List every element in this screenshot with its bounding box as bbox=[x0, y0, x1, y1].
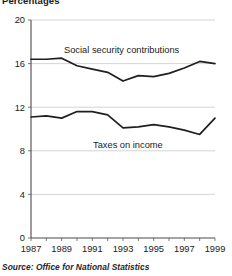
series-label-taxes-on-income: Taxes on income bbox=[93, 140, 163, 150]
x-tick-label: 1991 bbox=[82, 244, 103, 254]
x-tick-label: 1997 bbox=[174, 244, 195, 254]
source-label: Source: Office for National Statistics bbox=[2, 262, 149, 272]
x-tick-label: 1989 bbox=[51, 244, 72, 254]
x-tick-label: 1999 bbox=[205, 244, 226, 254]
y-tick-label: 16 bbox=[15, 59, 25, 69]
y-tick-label: 4 bbox=[20, 190, 25, 200]
y-tick-label: 12 bbox=[15, 103, 25, 113]
y-tick-label: 8 bbox=[20, 146, 25, 156]
x-tick-label: 1993 bbox=[113, 244, 134, 254]
y-tick-label: 20 bbox=[15, 15, 25, 25]
y-axis-ticks: 048121620 bbox=[15, 15, 31, 243]
series-label-social-security: Social security contributions bbox=[64, 45, 180, 55]
series-lines bbox=[31, 58, 215, 134]
line-chart-plot: 048121620 1987198919911993199519971999 S… bbox=[0, 0, 232, 276]
chart-figure: Percentages 048121620 198719891991199319… bbox=[0, 0, 232, 276]
series-path-taxes-on-income bbox=[31, 112, 215, 135]
series-path-social-security-contributions bbox=[31, 58, 215, 81]
x-tick-label: 1987 bbox=[21, 244, 42, 254]
y-tick-label: 0 bbox=[20, 233, 25, 243]
x-axis-ticks: 1987198919911993199519971999 bbox=[21, 238, 226, 254]
x-tick-label: 1995 bbox=[143, 244, 164, 254]
